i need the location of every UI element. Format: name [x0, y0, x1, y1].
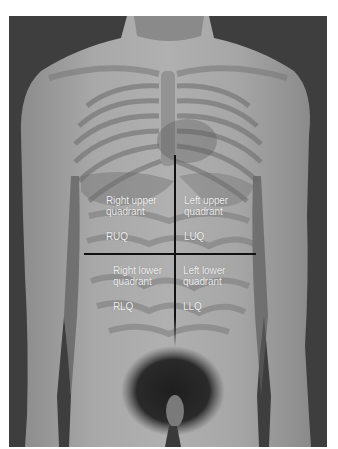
- quadrant-label-llq: Left lower quadrant LLQ: [183, 265, 225, 312]
- quadrant-label-rlq: Right lower quadrant RLQ: [113, 265, 162, 312]
- anatomy-photo: Right upper quadrant RUQ Left upper quad…: [9, 16, 327, 447]
- luq-line1: Left upper: [184, 195, 228, 206]
- llq-line1: Left lower: [183, 265, 225, 276]
- quadrant-label-luq: Left upper quadrant LUQ: [184, 195, 228, 242]
- llq-abbr: LLQ: [183, 301, 225, 312]
- horizontal-umbilical-line: [84, 253, 256, 255]
- quadrant-label-ruq: Right upper quadrant RUQ: [106, 195, 157, 242]
- luq-abbr: LUQ: [184, 231, 228, 242]
- rlq-line2: quadrant: [113, 276, 152, 287]
- llq-line2: quadrant: [183, 276, 222, 287]
- ruq-abbr: RUQ: [106, 231, 157, 242]
- ruq-line1: Right upper: [106, 195, 157, 206]
- vertical-midline: [174, 155, 176, 347]
- rlq-line1: Right lower: [113, 265, 162, 276]
- torso-illustration: [9, 16, 327, 447]
- rlq-abbr: RLQ: [113, 301, 162, 312]
- ruq-line2: quadrant: [106, 206, 145, 217]
- luq-line2: quadrant: [184, 206, 223, 217]
